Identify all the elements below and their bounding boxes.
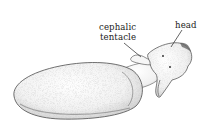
illustration-canvas: cephalic tentacle head bbox=[0, 0, 206, 126]
cephalic-tentacle-leader-line bbox=[124, 43, 141, 57]
head bbox=[148, 43, 192, 97]
organism-drawing bbox=[0, 0, 206, 126]
head-label: head bbox=[175, 20, 197, 30]
cephalic-label-line2: tentacle bbox=[99, 32, 136, 42]
eye-dot bbox=[169, 66, 171, 68]
cephalic-tentacle-label: cephalic tentacle bbox=[99, 22, 136, 42]
cephalic-label-line1: cephalic bbox=[99, 22, 136, 32]
eye-dot bbox=[162, 55, 164, 57]
body bbox=[14, 63, 143, 120]
